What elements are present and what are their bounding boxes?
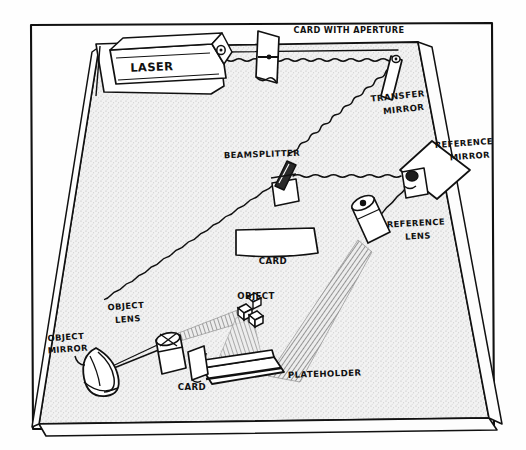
diagram-canvas: LASER CARD WITH APERTURE TRANSFER MIRROR… [0, 0, 526, 450]
aperture-hole-icon [267, 55, 272, 60]
label-reference-mirror-line2: MIRROR [449, 150, 490, 163]
card-centre-body [236, 228, 318, 257]
label-card-lower: CARD [178, 382, 206, 392]
label-reference-lens-line2: LENS [405, 230, 431, 241]
card-lower-body [188, 346, 208, 380]
holography-diagram: LASER CARD WITH APERTURE TRANSFER MIRROR… [0, 0, 526, 450]
card-centre [236, 228, 318, 257]
card-with-aperture [256, 31, 279, 83]
label-laser: LASER [130, 59, 174, 75]
label-card-with-aperture: CARD WITH APERTURE [294, 25, 405, 35]
label-object: OBJECT [237, 291, 275, 301]
label-object-lens-line2: LENS [115, 313, 141, 325]
label-card-centre: CARD [259, 256, 287, 266]
